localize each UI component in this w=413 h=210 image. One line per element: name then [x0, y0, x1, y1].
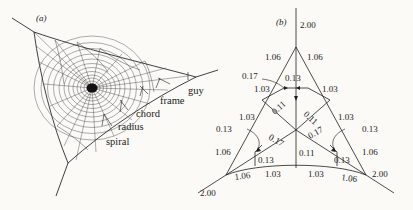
value-strut-right: 0.13 [334, 155, 350, 165]
leader-013-right [333, 129, 345, 149]
value-upper-leader-left: 0.17 [242, 71, 258, 81]
frame-thread-top [34, 32, 196, 77]
guy-line-right [196, 70, 218, 77]
value-apex-right: 1.06 [307, 52, 323, 62]
guy-line-topleft [12, 18, 34, 32]
value-lower-side-right: 1.06 [362, 147, 378, 157]
panel-b-letter: (b) [276, 17, 287, 27]
panel-b: (b) [198, 8, 394, 198]
value-apex-stem: 2.00 [300, 20, 316, 30]
arrowhead-strut-left [284, 86, 288, 90]
value-corner-bottom-right: 2.00 [372, 169, 388, 179]
callout-spiral: spiral [106, 136, 129, 147]
value-mid-diag-lower-left: 0.17 [267, 132, 286, 149]
frame-tick [156, 78, 160, 88]
radius-thread [92, 61, 145, 88]
value-leader-left: 0.13 [216, 124, 232, 134]
value-mid-diag-upper-left: 0.11 [270, 99, 288, 117]
guy-line-bottom [56, 163, 68, 196]
radius-thread [36, 46, 92, 88]
callout-radius: radius [118, 121, 144, 132]
figure-container: (a) [0, 0, 413, 210]
value-mid-side-right: 1.03 [338, 112, 354, 122]
value-upper-side-right: 1.03 [322, 84, 338, 94]
arrowhead-013-left [256, 147, 261, 152]
radius-to-bottomleft [226, 130, 296, 175]
value-lower-side-left: 1.06 [215, 147, 231, 157]
chord-thread [55, 40, 64, 84]
figure-svg: (a) [0, 0, 413, 210]
radius-thread [64, 88, 92, 146]
value-apex-left: 1.06 [265, 52, 281, 62]
panel-a-guy-lines [12, 18, 218, 196]
callout-guy: guy [188, 85, 205, 96]
arrowhead-strut-right [296, 86, 300, 90]
arrowhead-strut-down [294, 96, 298, 101]
value-mid-side-left: 1.03 [239, 112, 255, 122]
value-leader-right: 0.13 [362, 124, 378, 134]
callout-frame: frame [160, 95, 185, 106]
leader-013-left [247, 129, 259, 149]
frame-thread-left [34, 32, 68, 163]
arrowhead-013-right [331, 147, 336, 152]
value-upper-strut: 0.13 [285, 73, 301, 83]
value-center-stem: 0.11 [299, 148, 314, 158]
value-strut-left: 0.13 [258, 155, 274, 165]
panel-a: (a) [12, 13, 218, 196]
value-upper-side-left: 1.03 [254, 84, 270, 94]
value-base-left-outer: 1.06 [234, 170, 251, 182]
value-base-left-inner: 1.03 [265, 169, 281, 179]
value-base-right-outer: 1.06 [341, 172, 358, 184]
value-mid-diag-lower-right: 0.17 [306, 124, 325, 141]
web-hub [87, 83, 98, 92]
callout-chord: chord [136, 108, 161, 119]
panel-a-letter: (a) [36, 13, 47, 23]
value-corner-bottom-left: 2.00 [200, 188, 216, 198]
value-base-right-inner: 1.03 [308, 169, 324, 179]
